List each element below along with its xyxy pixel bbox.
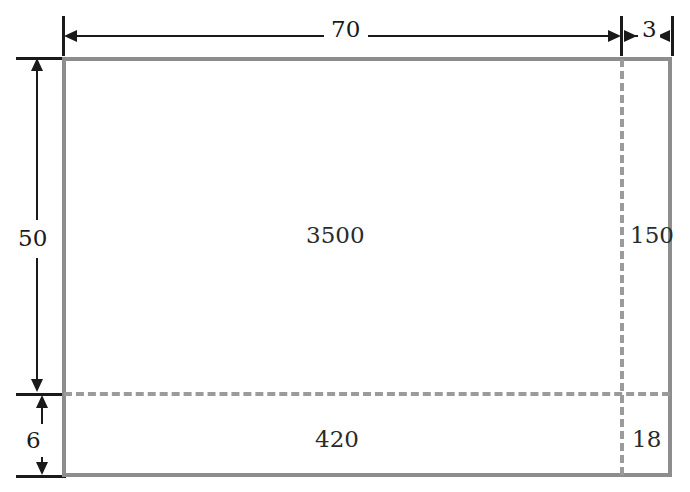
dimension-label-70: 70 [324, 18, 367, 41]
arrowhead-6-bottom [36, 462, 48, 475]
dimension-line-50-lower [36, 258, 38, 386]
dimension-line-70-right [368, 35, 614, 37]
dimension-line-70-left [70, 35, 326, 37]
arrowhead-50-bottom [31, 379, 43, 392]
diagram-canvas: 70 3 50 6 3500 150 420 18 [0, 0, 690, 492]
arrowhead-70-right [608, 30, 621, 42]
arrowhead-50-top [31, 58, 43, 71]
area-label-main: 3500 [306, 224, 365, 247]
partition-line-vertical [620, 59, 624, 475]
area-label-bottom-strip: 420 [315, 428, 359, 451]
partition-line-horizontal [64, 392, 670, 396]
area-label-corner: 18 [632, 428, 661, 451]
dimension-line-3-left [624, 35, 638, 37]
dimension-label-3: 3 [639, 18, 660, 41]
witness-tick-right-top [671, 16, 674, 56]
dimension-line-50-upper [36, 64, 38, 220]
arrowhead-70-left [64, 30, 77, 42]
dimension-label-50: 50 [16, 222, 49, 255]
witness-tick-bottom-left [16, 475, 66, 478]
arrowhead-6-top [36, 395, 48, 408]
area-label-right-strip: 150 [630, 224, 674, 247]
plate-outline [62, 57, 672, 477]
dimension-label-6: 6 [24, 424, 43, 457]
